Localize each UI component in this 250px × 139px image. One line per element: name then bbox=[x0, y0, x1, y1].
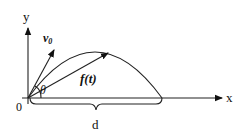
range-brace bbox=[30, 98, 162, 110]
velocity-subscript: 0 bbox=[48, 37, 52, 46]
angle-label: θ bbox=[40, 83, 46, 97]
y-axis-label: y bbox=[23, 9, 30, 24]
position-function-label: f(t) bbox=[80, 71, 97, 86]
velocity-label: v0 bbox=[43, 31, 52, 46]
origin-label: 0 bbox=[16, 100, 22, 114]
distance-label: d bbox=[92, 117, 99, 132]
x-axis-label: x bbox=[226, 90, 233, 105]
projectile-diagram: y x 0 v0 f(t) θ d bbox=[0, 0, 250, 139]
